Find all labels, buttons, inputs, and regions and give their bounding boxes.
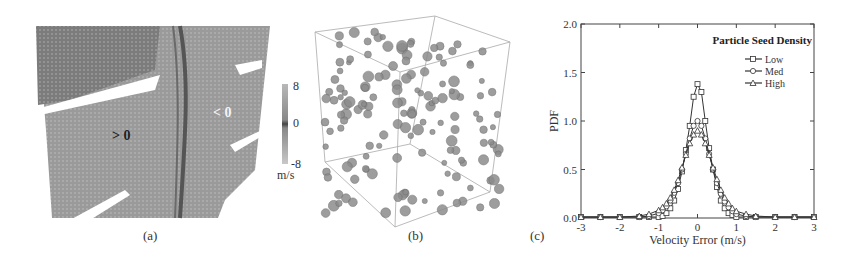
svg-text:-2: -2	[615, 221, 624, 233]
svg-text:-1: -1	[654, 221, 663, 233]
svg-text:-3: -3	[576, 221, 586, 233]
svg-text:0: 0	[695, 221, 701, 233]
positive-region-label: > 0	[112, 128, 130, 143]
svg-text:1: 1	[734, 221, 740, 233]
particle-box-image	[310, 12, 515, 232]
svg-text:PDF: PDF	[547, 110, 561, 132]
chart-legend: Particle Seed DensityLowMedHigh	[712, 34, 812, 89]
svg-text:2.0: 2.0	[563, 18, 577, 30]
chart-series	[578, 82, 817, 220]
svg-text:2: 2	[772, 221, 778, 233]
colorbar-unit: m/s	[277, 168, 294, 183]
svg-text:1.5: 1.5	[563, 67, 577, 79]
svg-text:1.0: 1.0	[563, 115, 577, 127]
legend-item-high: High	[745, 78, 785, 89]
pdf-chart: -3-2-101230.00.51.01.52.0Velocity Error …	[540, 0, 854, 257]
legend-item-low: Low	[745, 54, 784, 65]
panel-b-caption: (b)	[408, 228, 423, 244]
svg-text:Particle Seed Density: Particle Seed Density	[712, 34, 812, 46]
svg-text:Velocity Error (m/s): Velocity Error (m/s)	[649, 233, 746, 247]
panel-b	[310, 12, 515, 232]
panel-a-caption: (a)	[143, 228, 157, 244]
series-high	[578, 128, 817, 220]
svg-text:0.5: 0.5	[563, 164, 577, 176]
panel-c: -3-2-101230.00.51.01.52.0Velocity Error …	[540, 0, 854, 257]
svg-text:Med: Med	[765, 66, 783, 77]
legend-item-med: Med	[745, 66, 783, 77]
panel-a: > 0 < 0	[30, 20, 280, 220]
velocity-field-image: > 0 < 0	[30, 20, 280, 220]
svg-text:0.0: 0.0	[563, 212, 577, 224]
svg-text:Low: Low	[765, 54, 784, 65]
colorbar-tick-max: 8	[293, 79, 299, 94]
svg-text:3: 3	[811, 221, 817, 233]
negative-region-label: < 0	[213, 105, 231, 120]
colorbar-tick-zero: 0	[293, 116, 299, 131]
series-low	[579, 82, 817, 220]
colorbar-gradient	[282, 84, 288, 164]
chart-axes: -3-2-101230.00.51.01.52.0Velocity Error …	[547, 18, 817, 247]
svg-text:High: High	[765, 78, 785, 89]
